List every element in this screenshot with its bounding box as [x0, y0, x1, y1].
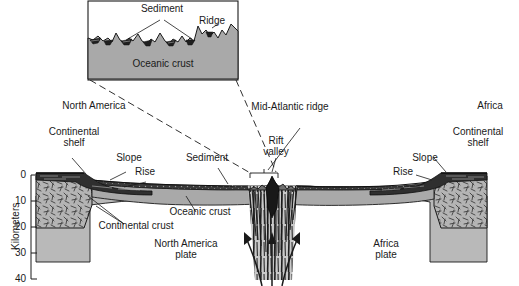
label-rise-left: Rise	[128, 166, 162, 177]
label-africa-plate: Africa plate	[358, 238, 414, 260]
label-slope-left: Slope	[108, 152, 150, 163]
axis-tick-0: 0	[8, 169, 26, 180]
axis-tick-30: 30	[8, 247, 26, 258]
label-mid-atlantic-ridge: Mid-Atlantic ridge	[238, 101, 342, 112]
label-sediment-main: Sediment	[176, 152, 238, 163]
axis-tick-40: 40	[8, 273, 26, 284]
label-north-america-plate: North America plate	[138, 238, 234, 260]
label-north-america: North America	[44, 100, 144, 111]
ridge-extent-bracket	[250, 169, 278, 178]
label-continental-shelf-left: Continental shelf	[36, 126, 112, 148]
label-continental-crust: Continental crust	[82, 220, 190, 231]
label-rise-right: Rise	[386, 166, 420, 177]
inset-label-oceanic-crust: Oceanic crust	[111, 58, 215, 69]
label-oceanic-crust-main: Oceanic crust	[158, 206, 242, 217]
label-slope-right: Slope	[404, 152, 446, 163]
inset-label-sediment: Sediment	[126, 3, 198, 14]
axis-tick-10: 10	[8, 195, 26, 206]
label-continental-shelf-right: Continental shelf	[440, 126, 516, 148]
label-africa: Africa	[466, 100, 514, 111]
axis-tick-20: 20	[8, 221, 26, 232]
figure-root: Sediment Ridge Oceanic crust North Ameri…	[0, 0, 519, 286]
inset-label-ridge: Ridge	[186, 15, 238, 26]
label-rift-valley: Rift valley	[254, 135, 298, 157]
